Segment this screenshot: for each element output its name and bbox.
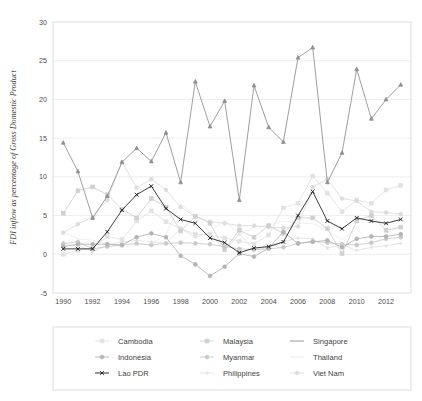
data-point-marker [252, 242, 256, 246]
data-point-marker [340, 210, 344, 214]
data-point-marker [340, 245, 344, 249]
legend-label: Viet Nam [313, 369, 344, 378]
data-point-marker [149, 177, 153, 181]
data-point-marker [105, 235, 109, 239]
data-point-marker [384, 235, 388, 239]
data-point-marker [61, 231, 65, 235]
data-point-marker [179, 205, 183, 209]
data-point-marker [281, 226, 285, 230]
legend-label: Singapore [313, 337, 348, 346]
data-point-marker [205, 355, 209, 359]
y-tick-label: 25 [39, 56, 47, 65]
data-point-marker [149, 243, 153, 247]
x-tick-label: 2010 [349, 297, 365, 306]
data-point-marker [237, 228, 241, 232]
data-point-marker [369, 201, 373, 205]
data-point-marker [164, 235, 168, 239]
x-tick-label: 2012 [378, 297, 394, 306]
data-point-marker [281, 245, 285, 249]
y-tick-label: 30 [39, 18, 47, 27]
data-point-marker [281, 230, 285, 234]
x-tick-label: 2008 [319, 297, 335, 306]
data-point-marker [237, 224, 241, 228]
data-point-marker [384, 188, 388, 192]
data-point-marker [105, 242, 109, 246]
data-point-marker [61, 252, 65, 256]
data-point-marker [369, 235, 373, 239]
data-point-marker [325, 191, 329, 195]
data-point-marker [252, 235, 256, 239]
plot-area [53, 22, 411, 293]
data-point-marker [296, 201, 300, 205]
data-point-marker [149, 209, 153, 213]
data-point-marker [179, 254, 183, 258]
data-point-marker [311, 240, 315, 244]
data-point-marker [311, 185, 315, 189]
x-tick-label: 2002 [231, 297, 247, 306]
data-point-marker [135, 186, 139, 190]
data-point-marker [355, 199, 359, 203]
legend-label: Cambodia [118, 337, 153, 346]
data-point-marker [311, 174, 315, 178]
chart-figure: -505101520253019901992199419961998200020… [0, 0, 422, 401]
data-point-marker [120, 243, 124, 247]
data-point-marker [325, 227, 329, 231]
x-tick-label: 1996 [143, 297, 159, 306]
data-point-marker [369, 241, 373, 245]
data-point-marker [149, 197, 153, 201]
data-point-marker [252, 224, 256, 228]
data-point-marker [179, 241, 183, 245]
data-point-marker [355, 243, 359, 247]
data-point-marker [205, 339, 209, 343]
data-point-marker [281, 206, 285, 210]
data-point-marker [340, 252, 344, 256]
data-point-marker [149, 231, 153, 235]
data-point-marker [295, 371, 299, 375]
y-tick-label: 5 [43, 211, 47, 220]
data-point-marker [399, 212, 403, 216]
x-tick-label: 2000 [202, 297, 218, 306]
data-point-marker [267, 224, 271, 228]
data-point-marker [267, 233, 271, 237]
data-point-marker [237, 247, 241, 251]
data-point-marker [325, 238, 329, 242]
legend-label: Philippines [223, 369, 260, 378]
data-point-marker [61, 211, 65, 215]
x-tick-label: 1992 [85, 297, 101, 306]
data-point-marker [399, 183, 403, 187]
x-tick-label: 1990 [55, 297, 71, 306]
data-point-marker [193, 262, 197, 266]
data-point-marker [91, 242, 95, 246]
data-point-marker [208, 221, 212, 225]
x-tick-label: 2006 [290, 297, 306, 306]
y-axis-title: FDI inflow as percentage of Gross Domest… [9, 70, 18, 246]
data-point-marker [223, 245, 227, 249]
x-tick-label: 1998 [173, 297, 189, 306]
data-point-marker [135, 216, 139, 220]
y-tick-label: 0 [43, 250, 47, 259]
data-point-marker [164, 188, 168, 192]
y-tick-label: 10 [39, 172, 47, 181]
y-tick-label: 20 [39, 95, 47, 104]
fdi-inflow-line-chart: -505101520253019901992199419961998200020… [0, 0, 422, 401]
data-point-marker [76, 222, 80, 226]
data-point-marker [76, 189, 80, 193]
data-point-marker [208, 242, 212, 246]
data-point-marker [208, 274, 212, 278]
data-point-marker [100, 355, 104, 359]
y-tick-label: -5 [41, 289, 47, 298]
legend-label: Malaysia [223, 337, 254, 346]
data-point-marker [252, 255, 256, 259]
data-point-marker [237, 239, 241, 243]
data-point-marker [164, 220, 168, 224]
legend-label: Myanmar [223, 353, 255, 362]
data-point-marker [223, 265, 227, 269]
data-point-marker [355, 237, 359, 241]
y-tick-label: 15 [39, 134, 47, 143]
data-point-marker [384, 211, 388, 215]
data-point-marker [179, 229, 183, 233]
x-tick-label: 2004 [261, 297, 277, 306]
legend-label: Thailand [313, 353, 342, 362]
data-point-marker [223, 236, 227, 240]
data-point-marker [193, 214, 197, 218]
